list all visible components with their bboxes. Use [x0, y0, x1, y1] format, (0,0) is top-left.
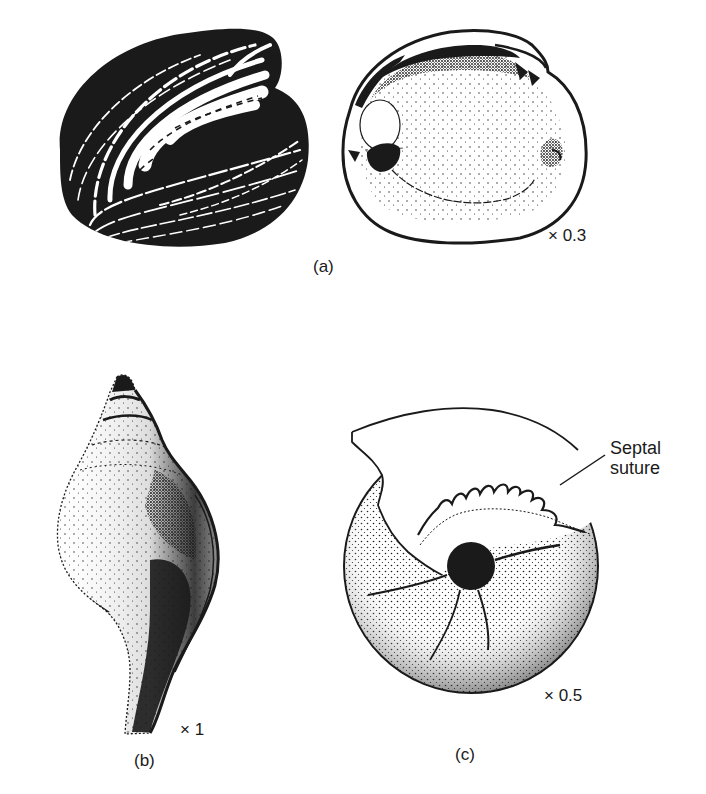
bivalve-exterior-drawing: [60, 29, 309, 247]
panel-a-label: (a): [313, 258, 334, 275]
panel-c-scale-label: × 0.5: [544, 687, 582, 704]
bivalve-interior-drawing: [343, 30, 586, 243]
panel-a-scale-label: × 0.3: [548, 227, 586, 244]
fossil-shells-illustration: [0, 0, 706, 794]
ammonite-drawing: [340, 408, 610, 700]
panel-c-label: (c): [455, 746, 475, 763]
callout-line-1: Septal: [610, 438, 661, 458]
panel-b-label: (b): [134, 752, 155, 769]
gastropod-drawing: [50, 370, 230, 740]
panel-b-scale-label: × 1: [180, 721, 204, 738]
septal-suture-callout: Septal suture: [610, 438, 661, 478]
callout-line-2: suture: [610, 458, 661, 478]
